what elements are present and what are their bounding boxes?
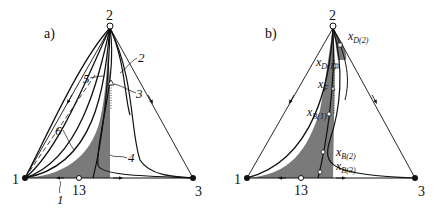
point-xd2 [338, 43, 342, 47]
azeotrope-label-a: 13 [72, 183, 86, 198]
curve-label-3: 3 [135, 86, 143, 101]
vertex-1-label-a: 1 [12, 172, 19, 187]
azeotrope-label-b: 13 [294, 183, 308, 198]
label-xd2: xD(2) [347, 29, 369, 45]
vertex-1-a [22, 175, 28, 181]
point-xb1 [327, 112, 331, 116]
vertex-3-a [190, 175, 196, 181]
vertex-2-label-a: 2 [106, 8, 113, 23]
diagram-canvas: a) 2 1 3 13 1 2 3 4 5 6 [0, 0, 441, 209]
curve-label-1: 1 [57, 192, 64, 207]
edge-2-3 [110, 28, 193, 178]
curve-label-6: 6 [55, 123, 62, 138]
panel-b-label: b) [265, 26, 277, 42]
vertex-3-label-b: 3 [418, 184, 425, 199]
point-xb3 [318, 170, 322, 174]
panel-a: a) 2 1 3 13 1 2 3 4 5 6 [12, 8, 202, 207]
azeotrope-13-a [77, 176, 82, 181]
curve-label-4: 4 [128, 150, 135, 165]
vertex-1-label-b: 1 [234, 172, 241, 187]
label-xb3: xB(3) [335, 159, 356, 175]
panel-a-label: a) [44, 26, 55, 42]
vertex-3-label-a: 3 [195, 184, 202, 199]
panel-b: b) 2 1 3 13 xD(2) xD(1) xF xB(1) xB(2) x… [234, 8, 425, 199]
curve-label-5: 5 [83, 71, 90, 86]
vertex-2-a [107, 23, 113, 29]
point-xb2 [321, 150, 325, 154]
vertex-2-label-b: 2 [329, 8, 336, 23]
curve-label-2: 2 [138, 50, 145, 65]
